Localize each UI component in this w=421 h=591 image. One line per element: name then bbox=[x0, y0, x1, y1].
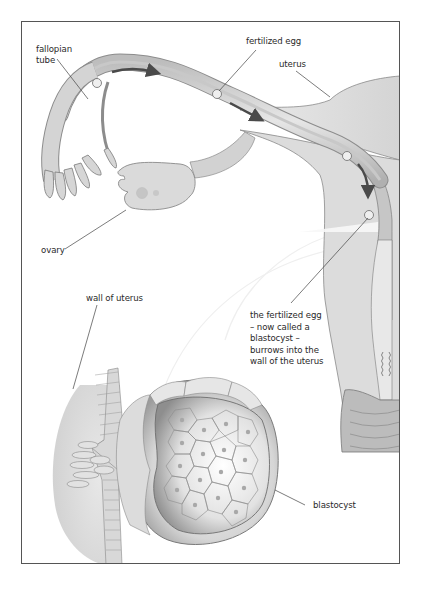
label-fertilized-egg: fertilized egg bbox=[246, 36, 301, 47]
blastocyst-illustration bbox=[116, 378, 278, 545]
label-ovary: ovary bbox=[41, 245, 65, 256]
label-wall-of-uterus: wall of uterus bbox=[86, 293, 143, 304]
reproductive-anatomy-illustration bbox=[0, 0, 421, 591]
label-fallopian-tube: fallopian tube bbox=[36, 44, 72, 66]
label-blastocyst-caption: the fertilized egg – now called a blasto… bbox=[250, 310, 323, 368]
uterine-wall-illustration bbox=[53, 368, 124, 565]
label-blastocyst: blastocyst bbox=[313, 500, 356, 511]
ovary-illustration bbox=[118, 132, 255, 210]
label-uterus: uterus bbox=[279, 59, 306, 70]
